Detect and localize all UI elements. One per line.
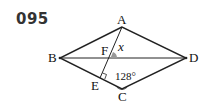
right-angle-mark: [103, 73, 107, 79]
label-f: F: [101, 43, 108, 58]
label-b: B: [48, 50, 57, 65]
label-x: x: [117, 39, 124, 54]
label-angle-128: 128°: [115, 70, 136, 82]
label-c: C: [118, 89, 127, 104]
label-d: D: [189, 50, 198, 65]
angle-x-mark: [111, 52, 118, 58]
rhombus-diagram: A B D C E F x 128°: [0, 0, 210, 110]
label-e: E: [91, 78, 99, 93]
label-a: A: [117, 12, 127, 27]
